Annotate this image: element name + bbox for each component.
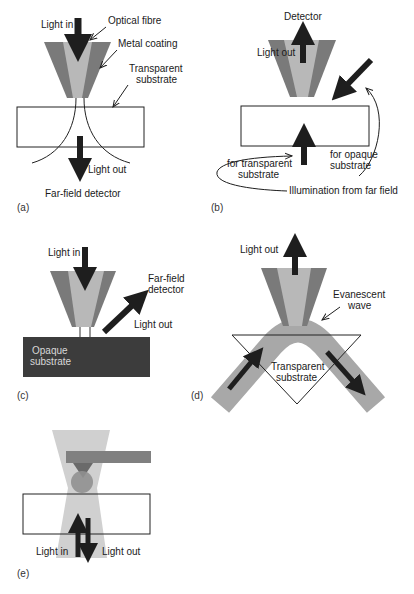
label-detector: Detector [284,11,322,22]
label-light-out: Light out [88,164,127,175]
pointer-transparent-substrate [113,85,128,107]
light-cone-curve [84,98,130,163]
panel-letter-e: (e) [17,568,29,579]
label-light-out: Light out [257,47,296,58]
panel-letter-c: (c) [17,390,29,401]
pointer-optical-fibre [90,27,106,40]
label-metal-coating: Metal coating [118,38,177,49]
light-cone-curve [32,98,76,163]
panel-letter-b: (b) [211,202,223,213]
label-evanescent-1: Evanescent [333,289,385,300]
panel-letter-a: (a) [17,202,29,213]
panel-c: Light in Far-field detector Light out Op… [17,247,185,401]
label-for-transparent-2: substrate [238,169,280,180]
label-transparent-substrate-2: substrate [136,74,178,85]
cantilever [66,451,151,463]
label-light-in: Light in [41,19,73,30]
label-light-in: Light in [36,546,68,557]
label-opaque-2: substrate [30,356,72,367]
label-illumination: Illumination from far field [289,185,398,196]
label-light-out: Light out [240,244,279,255]
label-opaque-1: Opaque [32,345,68,356]
panel-e: Light in Light out (e) [17,430,151,579]
label-for-opaque-2: substrate [330,160,372,171]
label-light-in: Light in [48,247,80,258]
label-evanescent-2: wave [347,300,372,311]
fibre-tip [44,42,111,98]
label-far-field-2: detector [148,284,185,295]
label-optical-fibre: Optical fibre [108,15,162,26]
label-transparent-2: substrate [276,372,318,383]
label-far-field-1: Far-field [148,273,185,284]
fibre-tip [261,268,327,326]
label-for-transparent-1: for transparent [227,158,292,169]
nsom-configurations-figure: Light in Optical fibre Metal coating Tra… [0,0,414,594]
illumination-arrow-opaque [340,60,371,92]
label-light-out: Light out [102,546,141,557]
label-for-opaque-1: for opaque [330,149,378,160]
fibre-tip [50,271,116,327]
panel-d: Light out Evanescent wave Transparent su… [191,244,385,405]
label-light-out: Light out [134,319,173,330]
panel-b: Detector Light out for transparent subst… [211,11,398,213]
label-transparent-1: Transparent [271,361,325,372]
pointer-evanescent [322,307,340,320]
label-transparent-substrate-1: Transparent [129,63,183,74]
panel-a: Light in Optical fibre Metal coating Tra… [17,15,183,213]
panel-letter-d: (d) [191,390,203,401]
label-far-field-detector: Far-field detector [45,188,121,199]
sample-particle [71,471,93,493]
